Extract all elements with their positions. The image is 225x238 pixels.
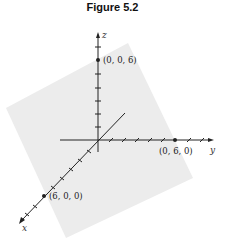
- point-x-intercept: [42, 194, 46, 198]
- point-label-z: (0, 0, 6): [103, 55, 137, 65]
- z-axis-arrow-icon: [96, 32, 100, 38]
- point-label-y: (0, 6, 0): [159, 146, 193, 156]
- point-label-x: (6, 0, 0): [49, 191, 83, 201]
- y-axis-arrow-icon: [208, 138, 214, 142]
- z-axis-label: z: [101, 30, 107, 40]
- point-z-intercept: [96, 58, 100, 62]
- x-axis-label: x: [22, 223, 27, 233]
- 3d-axes-diagram: z y x (0, 0, 6) (0, 6, 0) (6, 0, 0): [0, 0, 225, 238]
- point-y-intercept: [173, 138, 177, 142]
- y-axis-label: y: [209, 145, 216, 155]
